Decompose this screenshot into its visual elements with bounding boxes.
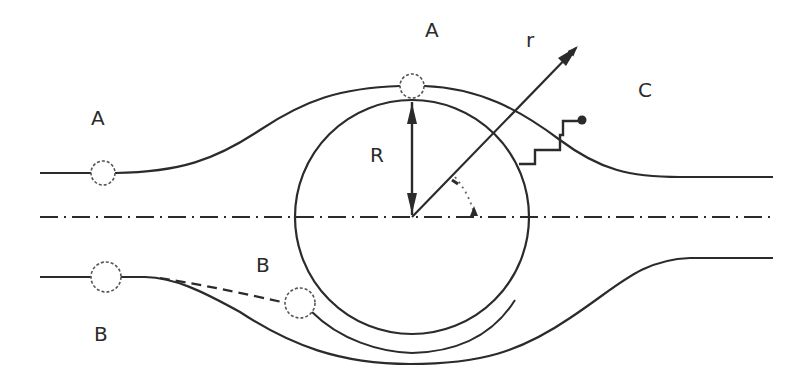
particle-A-left bbox=[91, 161, 115, 185]
angle-tick-radius bbox=[452, 180, 458, 184]
particle-B-left bbox=[91, 262, 121, 292]
staircase-path bbox=[519, 121, 582, 164]
radius-R-arrow-up bbox=[407, 103, 417, 124]
radius-R-arrow-down bbox=[407, 193, 417, 214]
diagram-canvas bbox=[0, 0, 806, 386]
trajectory-to-B bbox=[160, 278, 286, 303]
streamline-lower bbox=[40, 258, 773, 364]
particle-A-top bbox=[400, 74, 424, 98]
particle-B-near bbox=[285, 288, 315, 318]
label-r: r bbox=[526, 30, 534, 50]
label-A-top: A bbox=[425, 20, 439, 40]
angle-tick-axis bbox=[470, 206, 478, 216]
label-B-near: B bbox=[256, 255, 270, 275]
staircase-end-dot bbox=[578, 116, 587, 125]
flow-diagram: A A r C R B B bbox=[0, 0, 806, 386]
label-A-left: A bbox=[91, 108, 105, 128]
label-R: R bbox=[370, 145, 384, 165]
label-C: C bbox=[638, 80, 652, 100]
label-B-left: B bbox=[94, 324, 108, 344]
